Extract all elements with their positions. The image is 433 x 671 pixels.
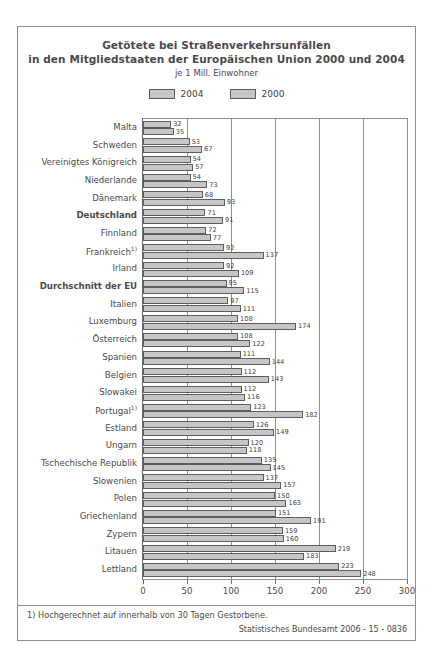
plot-grid: 3235536754575473689371917277921379210995…: [142, 118, 408, 580]
category-label: Spanien: [102, 352, 137, 362]
bar-value-label: 93: [227, 198, 235, 206]
bar-value-label: 71: [207, 209, 215, 217]
bar-2000: [143, 234, 211, 241]
bar-2004: [143, 545, 336, 552]
bar-value-label: 191: [313, 517, 326, 525]
bar-2000: [143, 164, 193, 171]
axis-tick: [363, 580, 364, 584]
category-label: Vereinigtes Königreich: [41, 157, 137, 167]
bar-2000: [143, 146, 202, 153]
bar-value-label: 122: [252, 340, 265, 348]
bar-2000: [143, 358, 270, 365]
bar-value-label: 92: [226, 244, 234, 252]
bar-2004: [143, 297, 228, 304]
category-label: Tschechische Republik: [41, 458, 137, 468]
bar-2004: [143, 174, 191, 181]
bar-value-label: 108: [240, 332, 253, 340]
bar-value-label: 67: [204, 145, 212, 153]
bar-2000: [143, 287, 244, 294]
bar-2000: [143, 553, 304, 560]
bar-2004: [143, 421, 254, 428]
category-label: Litauen: [105, 546, 137, 556]
bar-2000: [143, 305, 241, 312]
axis-tick-label: 250: [355, 586, 371, 596]
category-label: Estland: [105, 423, 137, 433]
category-label: Portugal1): [95, 404, 137, 416]
legend-swatch-2004: [149, 89, 175, 99]
bar-2004: [143, 280, 227, 287]
category-label: Zypern: [106, 529, 137, 539]
category-label: Luxemburg: [89, 316, 137, 326]
bar-value-label: 248: [363, 570, 376, 578]
chart-legend: 2004 2000: [18, 89, 415, 99]
axis-tick-label: 50: [182, 586, 193, 596]
bar-2000: [143, 340, 250, 347]
bar-2000: [143, 270, 239, 277]
bar-value-label: 111: [243, 350, 256, 358]
bar-value-label: 182: [305, 411, 318, 419]
bar-value-label: 53: [192, 138, 200, 146]
category-label: Lettland: [102, 564, 137, 574]
bar-value-label: 54: [193, 173, 201, 181]
bar-value-label: 137: [266, 474, 279, 482]
bar-2004: [143, 368, 242, 375]
category-label: Schweden: [93, 140, 137, 150]
category-label: Polen: [114, 493, 137, 503]
category-label: Slowenien: [93, 476, 137, 486]
bar-value-label: 219: [338, 545, 351, 553]
axis-tick-label: 100: [223, 586, 239, 596]
legend-label-2004: 2004: [181, 89, 204, 99]
bar-2004: [143, 351, 241, 358]
bar-value-label: 68: [205, 191, 213, 199]
bar-2004: [143, 563, 339, 570]
bar-value-label: 151: [278, 509, 291, 517]
bar-value-label: 112: [244, 368, 257, 376]
bar-2000: [143, 535, 284, 542]
category-label: Deutschland: [76, 210, 137, 220]
category-axis-labels: MaltaSchwedenVereinigtes KönigreichNiede…: [18, 118, 142, 580]
bar-2004: [143, 191, 203, 198]
axis-tick: [143, 580, 144, 584]
bar-2000: [143, 517, 311, 524]
bar-value-label: 35: [176, 128, 184, 136]
bar-2004: [143, 457, 262, 464]
bar-value-label: 115: [246, 287, 259, 295]
category-label: Slowakei: [99, 387, 137, 397]
bar-2004: [143, 386, 242, 393]
category-label: Italien: [110, 299, 137, 309]
bar-2004: [143, 510, 276, 517]
bar-value-label: 144: [272, 358, 285, 366]
axis-tick-label: 200: [311, 586, 327, 596]
bar-2000: [143, 376, 269, 383]
chart-title-line-1: Getötete bei Straßenverkehrsunfällen: [18, 38, 415, 52]
plot-area: MaltaSchwedenVereinigtes KönigreichNiede…: [18, 118, 417, 596]
axis-tick-label: 150: [267, 586, 283, 596]
chart-header: Getötete bei Straßenverkehrsunfällen in …: [18, 27, 415, 80]
bar-2004: [143, 138, 190, 145]
axis-tick: [275, 580, 276, 584]
gridline: [319, 119, 320, 579]
bar-value-label: 149: [276, 428, 289, 436]
axis-tick: [187, 580, 188, 584]
legend-item-2000: 2000: [230, 89, 285, 99]
bar-value-label: 57: [195, 163, 203, 171]
gridline: [407, 119, 408, 579]
bar-value-label: 123: [253, 403, 266, 411]
bar-value-label: 118: [249, 446, 262, 454]
legend-swatch-2000: [230, 89, 256, 99]
bar-value-label: 73: [209, 181, 217, 189]
category-label: Niederlande: [85, 175, 137, 185]
legend-item-2004: 2004: [149, 89, 204, 99]
axis-tick: [319, 580, 320, 584]
bar-2004: [143, 244, 224, 251]
category-label: Griechenland: [80, 511, 137, 521]
axis-tick: [231, 580, 232, 584]
bar-value-label: 183: [306, 552, 319, 560]
bar-2000: [143, 394, 245, 401]
bar-value-label: 91: [225, 216, 233, 224]
bar-2004: [143, 333, 238, 340]
bar-value-label: 97: [230, 297, 238, 305]
bar-value-label: 126: [256, 421, 269, 429]
bar-2004: [143, 227, 206, 234]
bar-2000: [143, 429, 274, 436]
